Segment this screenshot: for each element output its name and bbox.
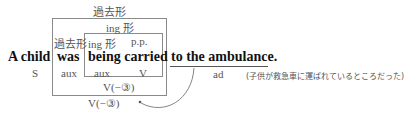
modifier-arrow-icon [0, 0, 401, 115]
